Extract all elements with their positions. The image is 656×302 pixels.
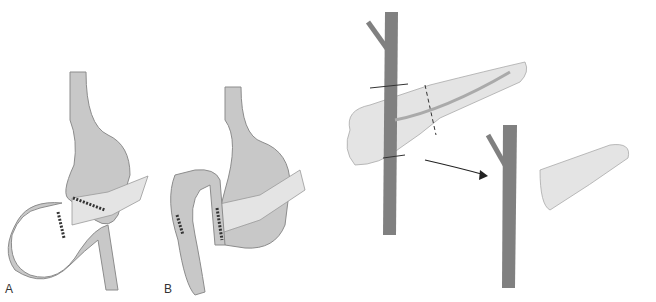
panel-a-drawing <box>8 72 148 290</box>
panel-label-b: B <box>164 282 172 296</box>
surgical-illustration <box>0 0 656 302</box>
panel-c-drawing <box>347 12 629 288</box>
panel-b-drawing <box>171 87 305 295</box>
panel-label-a: A <box>5 282 13 296</box>
